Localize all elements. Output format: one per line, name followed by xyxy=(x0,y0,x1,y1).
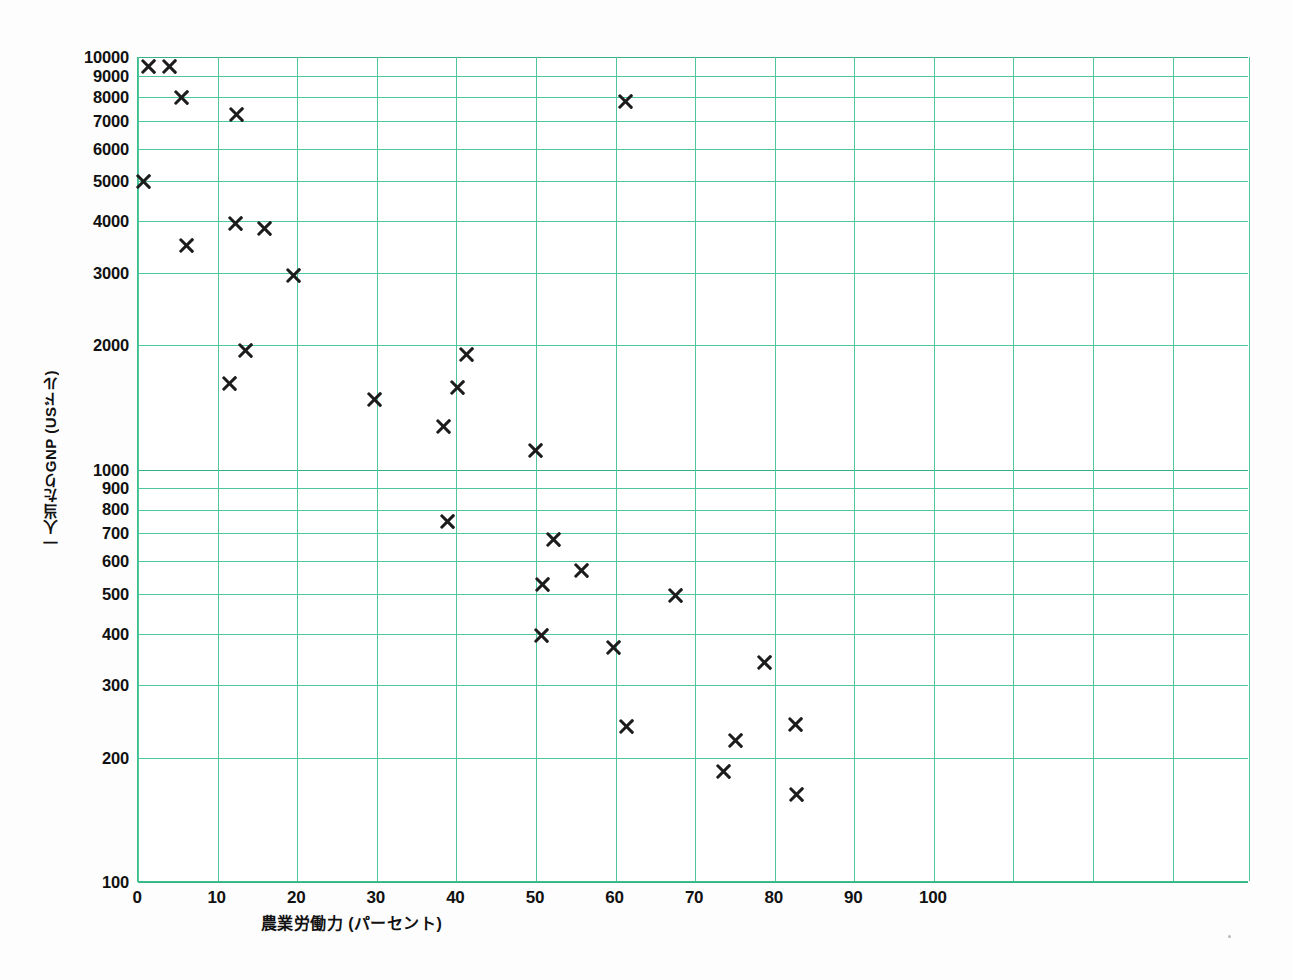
gridline-horizontal xyxy=(138,685,1248,686)
y-axis-tick-label: 3000 xyxy=(49,263,129,282)
data-point xyxy=(226,214,245,233)
gridline-horizontal xyxy=(138,758,1248,759)
gridline-horizontal xyxy=(138,57,1248,58)
y-axis-tick-label: 7000 xyxy=(49,111,129,130)
y-axis-tick-label: 10000 xyxy=(49,48,129,67)
x-axis-tick-label: 90 xyxy=(844,888,862,908)
data-point xyxy=(532,626,551,645)
gridline-vertical xyxy=(854,57,855,881)
gridline-horizontal xyxy=(138,76,1248,77)
gridline-horizontal xyxy=(138,149,1248,150)
x-axis-title-text: 農業労働力 (パーセント) xyxy=(261,915,443,932)
y-axis-tick-label: 5000 xyxy=(49,172,129,191)
x-axis-tick-label: 30 xyxy=(367,888,385,908)
gridline-vertical xyxy=(616,57,617,881)
x-axis-tick-label: 20 xyxy=(287,888,305,908)
gridline-horizontal xyxy=(138,533,1248,534)
data-point xyxy=(714,762,733,781)
data-point xyxy=(236,341,255,360)
y-axis-tick-label: 900 xyxy=(49,479,129,498)
y-axis-tick-label: 600 xyxy=(49,552,129,571)
data-point xyxy=(755,653,774,672)
y-axis-tick-label: 4000 xyxy=(49,212,129,231)
x-axis-tick-label: 10 xyxy=(207,888,225,908)
gridline-horizontal xyxy=(138,488,1248,489)
gridline-vertical xyxy=(775,57,776,881)
plot-area xyxy=(137,57,1248,882)
x-axis-tick-label: 100 xyxy=(919,888,946,908)
gridline-vertical xyxy=(377,57,378,881)
data-point xyxy=(160,57,179,76)
y-axis-tick-label: 6000 xyxy=(49,139,129,158)
data-point xyxy=(434,417,453,436)
y-axis-tick-label: 700 xyxy=(49,524,129,543)
y-axis-tick-label: 200 xyxy=(49,748,129,767)
data-point xyxy=(177,236,196,255)
data-point xyxy=(457,345,476,364)
data-point xyxy=(365,390,384,409)
data-point xyxy=(786,715,805,734)
data-point xyxy=(726,731,745,750)
y-axis-tick-label: 8000 xyxy=(49,87,129,106)
gridline-vertical xyxy=(1249,57,1250,881)
gridline-vertical xyxy=(1173,57,1174,881)
gridline-horizontal xyxy=(138,594,1248,595)
x-axis-tick-label: 70 xyxy=(685,888,703,908)
chart-page: 一人当たりGNP (USドル) 100200300400500600700800… xyxy=(0,0,1293,980)
gridline-vertical xyxy=(456,57,457,881)
gridline-horizontal xyxy=(138,561,1248,562)
y-axis-tick-label: 1000 xyxy=(49,460,129,479)
gridline-horizontal xyxy=(138,121,1248,122)
data-point xyxy=(139,57,158,76)
data-point xyxy=(604,638,623,657)
gridline-vertical xyxy=(536,57,537,881)
gridline-vertical xyxy=(218,57,219,881)
page-mark xyxy=(1228,935,1231,938)
data-point xyxy=(617,717,636,736)
gridline-horizontal xyxy=(138,882,1248,883)
gridline-vertical xyxy=(138,57,139,881)
x-axis-tick-label: 50 xyxy=(526,888,544,908)
data-point xyxy=(572,561,591,580)
gridline-vertical xyxy=(297,57,298,881)
gridline-horizontal xyxy=(138,470,1248,471)
y-axis-tick-label: 2000 xyxy=(49,336,129,355)
data-point xyxy=(255,219,274,238)
data-point xyxy=(220,374,239,393)
x-axis-title: 農業労働力 (パーセント) xyxy=(0,910,1293,934)
gridline-horizontal xyxy=(138,221,1248,222)
x-axis-tick-label: 80 xyxy=(765,888,783,908)
y-axis-tick-label: 9000 xyxy=(49,66,129,85)
gridline-horizontal xyxy=(138,345,1248,346)
y-axis-tick-label: 100 xyxy=(49,873,129,892)
gridline-vertical xyxy=(1093,57,1094,881)
x-axis-tick-label: 0 xyxy=(132,888,141,908)
data-point xyxy=(448,378,467,397)
data-point xyxy=(438,512,457,531)
gridline-horizontal xyxy=(138,273,1248,274)
y-axis-tick-label: 500 xyxy=(49,584,129,603)
gridline-horizontal xyxy=(138,97,1248,98)
gridline-horizontal xyxy=(138,181,1248,182)
gridline-vertical xyxy=(934,57,935,881)
data-point xyxy=(285,266,304,285)
x-axis-tick-label: 60 xyxy=(605,888,623,908)
data-point xyxy=(788,785,807,804)
gridline-horizontal xyxy=(138,634,1248,635)
x-axis-tick-label: 40 xyxy=(446,888,464,908)
gridline-vertical xyxy=(695,57,696,881)
y-axis-tick-label: 300 xyxy=(49,676,129,695)
data-point xyxy=(616,92,635,111)
y-axis-tick-label: 400 xyxy=(49,624,129,643)
data-point xyxy=(666,586,685,605)
gridline-horizontal xyxy=(138,510,1248,511)
y-axis-tick-label: 800 xyxy=(49,500,129,519)
gridline-vertical xyxy=(1013,57,1014,881)
